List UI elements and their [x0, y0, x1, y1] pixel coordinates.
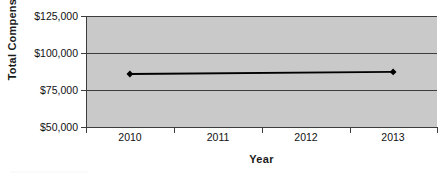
x-tick-mark-3	[350, 128, 351, 133]
y-tick-label-75000: $75,000	[6, 84, 78, 96]
line-chart: Total Compensation $125,000 $100,000 $75…	[0, 0, 446, 178]
x-tick-label-2013: 2013	[358, 131, 428, 143]
y-tick-label-50000: $50,000	[6, 121, 78, 133]
y-tick-label-125000: $125,000	[6, 10, 78, 22]
x-tick-mark-2	[262, 128, 263, 133]
data-point-marker	[390, 69, 397, 76]
scan-artifact	[10, 171, 88, 173]
y-tick-label-100000: $100,000	[6, 47, 78, 59]
series-line-total-compensation	[130, 72, 393, 74]
x-axis-title: Year	[86, 153, 437, 165]
series-layer	[86, 16, 437, 127]
x-tick-mark-1	[174, 128, 175, 133]
x-tick-mark-4	[437, 128, 438, 133]
data-point-marker	[126, 71, 133, 78]
x-tick-label-2012: 2012	[271, 131, 341, 143]
x-tick-label-2010: 2010	[95, 131, 165, 143]
x-tick-mark-0	[86, 128, 87, 133]
x-tick-label-2011: 2011	[183, 131, 253, 143]
